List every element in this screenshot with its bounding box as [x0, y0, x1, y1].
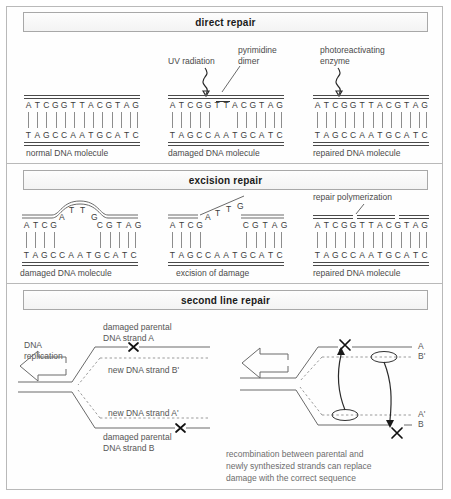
caption-recombination-line2: newly synthesized strands can replace [226, 461, 372, 473]
caption-recombination-line3: damage with the correct sequence [226, 473, 356, 485]
second-line-repair-graphics [0, 0, 451, 499]
label-strand-b: B [418, 419, 424, 430]
label-strand-b-prime: B' [418, 351, 425, 362]
caption-recombination-line1: recombination between parental and [226, 449, 364, 461]
dna-repair-figure: direct repair UV radiation pyrimidine di… [0, 0, 451, 499]
